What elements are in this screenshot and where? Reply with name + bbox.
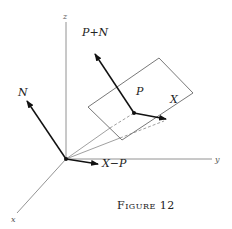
x-axis-label: x [11, 215, 16, 224]
z-axis-label: z [62, 12, 68, 21]
x-axis [17, 159, 66, 213]
origin-point [64, 157, 68, 161]
origin-ray-upper [66, 128, 110, 159]
label-p: P [135, 85, 144, 98]
vector-n [27, 101, 66, 159]
figure-caption: Figure 12 [117, 199, 175, 212]
dashed-line-to-x [120, 121, 164, 138]
label-n: N [17, 86, 28, 99]
dashed-line-to-p [110, 113, 134, 128]
vector-p-plus-n [95, 54, 134, 113]
origin-ray-lower [66, 138, 120, 159]
vector-x-minus-p [66, 159, 98, 164]
label-x-minus-p: X−P [101, 157, 127, 170]
point-p [132, 111, 136, 115]
label-p-plus-n: P+N [81, 26, 109, 39]
figure-diagram: z y x N P+N P X X−P Figure 12 [0, 0, 232, 229]
label-x: X [169, 93, 179, 106]
y-axis-label: y [214, 155, 220, 164]
